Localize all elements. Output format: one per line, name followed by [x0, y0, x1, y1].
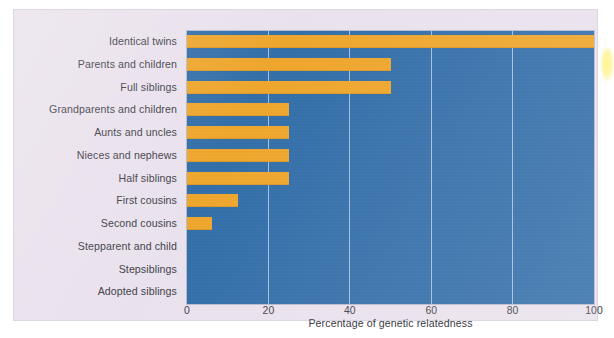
- bar-row: [187, 281, 594, 302]
- bar: [187, 126, 289, 139]
- bar: [187, 103, 289, 116]
- y-axis-label: Second cousins: [101, 213, 177, 234]
- bar: [187, 194, 238, 207]
- x-tick-label: 0: [184, 305, 190, 316]
- bar-row: [187, 99, 594, 120]
- bar-row: [187, 77, 594, 98]
- bar-row: [187, 145, 594, 166]
- bar-row: [187, 168, 594, 189]
- y-axis-label: Stepparent and child: [78, 236, 177, 257]
- y-axis-category-labels: Identical twinsParents and childrenFull …: [14, 31, 182, 304]
- x-axis-title: Percentage of genetic relatedness: [187, 317, 594, 329]
- x-tick-label: 80: [507, 305, 519, 316]
- bar-row: [187, 122, 594, 143]
- bar: [187, 58, 391, 71]
- x-tick-label: 60: [425, 305, 437, 316]
- x-tick-label: 100: [585, 305, 602, 316]
- plot-area: [187, 31, 594, 304]
- bar-row: [187, 259, 594, 280]
- x-tick-label: 20: [263, 305, 275, 316]
- bar-row: [187, 213, 594, 234]
- bar-row: [187, 31, 594, 52]
- y-axis-label: Stepsiblings: [119, 259, 177, 280]
- y-axis-label: Grandparents and children: [49, 99, 177, 120]
- y-axis-label: First cousins: [116, 190, 177, 211]
- bar: [187, 35, 594, 48]
- y-axis-label: Aunts and uncles: [94, 122, 177, 143]
- y-axis-label: Adopted siblings: [98, 281, 177, 302]
- bar: [187, 81, 391, 94]
- y-axis-label: Nieces and nephews: [77, 145, 177, 166]
- y-axis-label: Identical twins: [109, 31, 177, 52]
- bar-row: [187, 236, 594, 257]
- y-axis-label: Parents and children: [78, 54, 177, 75]
- bar-row: [187, 190, 594, 211]
- scan-artifact: [601, 48, 614, 82]
- bar-row: [187, 54, 594, 75]
- bar: [187, 172, 289, 185]
- y-axis-label: Full siblings: [120, 77, 177, 98]
- x-tick-label: 40: [344, 305, 356, 316]
- bar: [187, 217, 212, 230]
- y-axis-label: Half siblings: [119, 168, 177, 189]
- figure-card: Identical twinsParents and childrenFull …: [14, 10, 597, 320]
- bar: [187, 149, 289, 162]
